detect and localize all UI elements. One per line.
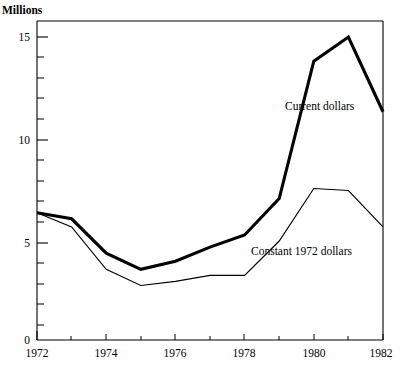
plot-frame: [37, 21, 383, 340]
y-axis-ticks: [37, 37, 48, 325]
x-tick-label-1978: 1978: [233, 347, 256, 359]
x-tick-label-1976: 1976: [164, 347, 187, 359]
line-chart: 15 10 5 0 1972 1974 1976 1978 1980 1982 …: [0, 0, 406, 366]
y-axis-tick-labels: 15 10 5 0: [19, 31, 31, 346]
x-tick-label-1980: 1980: [303, 347, 326, 359]
y-tick-label-0: 0: [24, 334, 30, 346]
x-tick-label-1982: 1982: [370, 347, 393, 359]
y-tick-label-5: 5: [24, 237, 30, 249]
y-tick-label-10: 10: [19, 134, 31, 146]
x-tick-label-1974: 1974: [95, 347, 118, 359]
series-line-current-dollars: [37, 37, 383, 269]
x-tick-label-1972: 1972: [26, 347, 49, 359]
y-tick-label-15: 15: [19, 31, 31, 43]
series-label-constant-1972-dollars: Constant 1972 dollars: [251, 245, 352, 257]
x-axis-ticks: [37, 331, 383, 340]
chart-container: 15 10 5 0 1972 1974 1976 1978 1980 1982 …: [0, 0, 406, 366]
series-label-current-dollars: Current dollars: [285, 100, 355, 112]
y-axis-title: Millions: [2, 4, 43, 16]
x-axis-tick-labels: 1972 1974 1976 1978 1980 1982: [26, 347, 393, 359]
